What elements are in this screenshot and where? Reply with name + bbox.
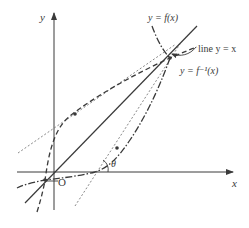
- curve-f: [17, 26, 170, 188]
- tangent-line-upper: [18, 44, 176, 153]
- identity-line: [25, 26, 197, 203]
- tangent-line-steep: [75, 44, 180, 206]
- point-on-f: [115, 146, 119, 150]
- inverse-function-diagram: y x O y = f(x) line y = x y = f⁻¹(x) θ: [0, 0, 249, 228]
- f-inverse-curve-label: y = f⁻¹(x): [179, 65, 219, 77]
- identity-line-label: line y = x: [198, 43, 236, 54]
- origin-label: O: [58, 176, 66, 188]
- angle-theta-label: θ: [111, 158, 116, 169]
- f-curve-label: y = f(x): [147, 12, 179, 24]
- x-axis-label: x: [231, 177, 237, 189]
- point-intersection-upper: [168, 56, 172, 60]
- point-on-f-inverse: [73, 112, 77, 116]
- y-axis-label: y: [39, 11, 45, 23]
